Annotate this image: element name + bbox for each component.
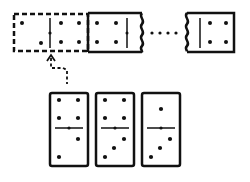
arrow-up-icon	[47, 55, 67, 84]
domino-diagram	[0, 0, 250, 182]
chain-domino-last	[186, 13, 234, 52]
chain-domino-first	[88, 13, 143, 52]
candidate-domino-1[interactable]	[50, 93, 88, 166]
ellipsis-dots	[150, 31, 177, 34]
candidate-domino-3[interactable]	[142, 93, 180, 166]
candidate-domino-2[interactable]	[96, 93, 134, 166]
placeholder-domino	[14, 14, 88, 51]
